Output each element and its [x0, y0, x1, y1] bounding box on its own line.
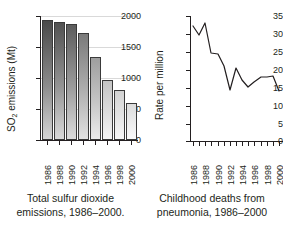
bar-chart-xtick-mark-1992 — [83, 141, 84, 145]
line-chart-xtick-mark-1997 — [261, 142, 262, 146]
bar-chart-y-axis — [40, 16, 41, 141]
bar-chart-xtick-1996: 1996 — [104, 165, 113, 185]
line-chart-xtick-mark-1992 — [230, 142, 231, 146]
bar-chart-ytick-2000: 2000 — [107, 12, 141, 21]
line-chart-polyline — [193, 23, 279, 91]
line-chart-xtick-mark-1999 — [273, 142, 274, 146]
bar-chart-xtick-2000: 2000 — [128, 165, 137, 185]
bar-chart-xtick-1998: 1998 — [116, 165, 125, 185]
bar-1992 — [78, 33, 89, 140]
bar-chart-x-axis — [40, 140, 138, 141]
line-chart-xtick-mark-2000 — [279, 142, 280, 146]
line-chart-xtick-1986: 1986 — [190, 165, 199, 185]
line-chart-xtick-mark-1991 — [224, 142, 225, 146]
line-chart-xtick-1994: 1994 — [239, 165, 248, 185]
bar-1996 — [102, 80, 113, 140]
line-chart-xtick-mark-1994 — [242, 142, 243, 146]
line-chart-xtick-1996: 1996 — [251, 165, 260, 185]
line-chart-xtick-mark-1989 — [211, 142, 212, 146]
line-chart-xtick-mark-1996 — [254, 142, 255, 146]
bar-chart-xtick-1990: 1990 — [68, 165, 77, 185]
bar-chart-xtick-1986: 1986 — [44, 165, 53, 185]
line-chart-xtick-mark-1986 — [193, 142, 194, 146]
line-chart-xtick-mark-1993 — [236, 142, 237, 146]
line-chart-xtick-mark-1995 — [248, 142, 249, 146]
line-chart-xtick-mark-1987 — [199, 142, 200, 146]
bar-chart-xtick-mark-1994 — [95, 141, 96, 145]
bar-chart-xtick-mark-1996 — [107, 141, 108, 145]
line-chart-xtick-1990: 1990 — [215, 165, 224, 185]
line-chart-series — [141, 0, 283, 160]
line-chart-xtick-1988: 1988 — [202, 165, 211, 185]
bar-1998 — [114, 90, 125, 140]
line-chart-caption-line2: pneumonia, 1986–2000 — [141, 206, 283, 219]
bar-chart-xtick-1992: 1992 — [80, 165, 89, 185]
line-chart-xtick-1992: 1992 — [227, 165, 236, 185]
bar-1988 — [54, 22, 65, 140]
line-chart-caption-line1: Childhood deaths from — [141, 192, 283, 205]
bar-1990 — [66, 24, 77, 140]
bar-chart-xtick-mark-1998 — [119, 141, 120, 145]
bar-chart-caption-line1: Total sulfur dioxide — [0, 192, 141, 205]
bar-2000 — [126, 103, 137, 140]
bar-chart-ytick-1500: 1500 — [107, 43, 141, 52]
bar-chart-xtick-mark-1986 — [47, 141, 48, 145]
line-chart-xtick-mark-1990 — [218, 142, 219, 146]
bar-chart-caption-line2: emissions, 1986–2000. — [0, 206, 141, 219]
line-chart-xtick-1998: 1998 — [264, 165, 273, 185]
line-chart-xtick-mark-1988 — [205, 142, 206, 146]
bar-chart-xtick-1994: 1994 — [92, 165, 101, 185]
bar-chart-panel: SO2 emissions (Mt) 2000 1500 1000 500 0 — [0, 0, 141, 225]
bar-chart-xtick-mark-2000 — [131, 141, 132, 145]
bar-1994 — [90, 57, 101, 140]
bar-chart-xtick-1988: 1988 — [56, 165, 65, 185]
bar-chart-xtick-mark-1988 — [59, 141, 60, 145]
figure-pair: SO2 emissions (Mt) 2000 1500 1000 500 0 — [0, 0, 283, 225]
bar-chart-y-axis-title: SO2 emissions (Mt) — [6, 46, 18, 132]
line-chart-panel: Rate per million 35 30 25 20 15 10 5 0 — [141, 0, 283, 225]
line-chart-xtick-2000: 2000 — [276, 165, 283, 185]
line-chart-xtick-mark-1998 — [267, 142, 268, 146]
bar-chart-xtick-mark-1990 — [71, 141, 72, 145]
bar-1986 — [42, 20, 53, 140]
